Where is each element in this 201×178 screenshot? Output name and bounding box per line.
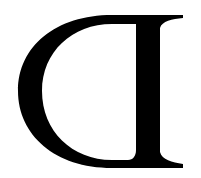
reversed-d-glyph [0, 0, 201, 178]
reversed-d-icon [0, 0, 201, 178]
